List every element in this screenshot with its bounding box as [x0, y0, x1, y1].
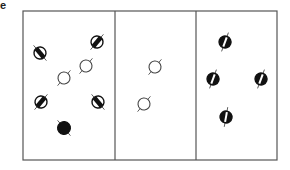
particle-half-filled-vertical-icon — [204, 68, 222, 91]
particle-half-filled-vertical-icon — [216, 31, 234, 54]
particle-half-filled-diagonal-icon — [30, 90, 52, 113]
panel-middle — [133, 55, 166, 115]
particle-open-circle-icon — [75, 54, 97, 77]
particle-half-filled-diagonal-icon — [86, 30, 108, 53]
panel-left — [29, 30, 109, 139]
particle-filled-circle-icon — [53, 116, 76, 140]
particle-open-circle-icon — [144, 55, 166, 78]
panel-right — [204, 31, 270, 128]
particle-half-filled-vertical-icon — [218, 106, 233, 128]
particle-open-circle-icon — [133, 92, 155, 115]
particle-open-circle-icon — [53, 66, 75, 89]
particle-diagram — [0, 0, 290, 170]
particle-half-filled-vertical-icon — [252, 68, 270, 91]
particle-half-filled-diagonal-icon — [87, 90, 109, 113]
particle-half-filled-diagonal-icon — [29, 41, 51, 64]
panel-frame — [23, 11, 277, 160]
